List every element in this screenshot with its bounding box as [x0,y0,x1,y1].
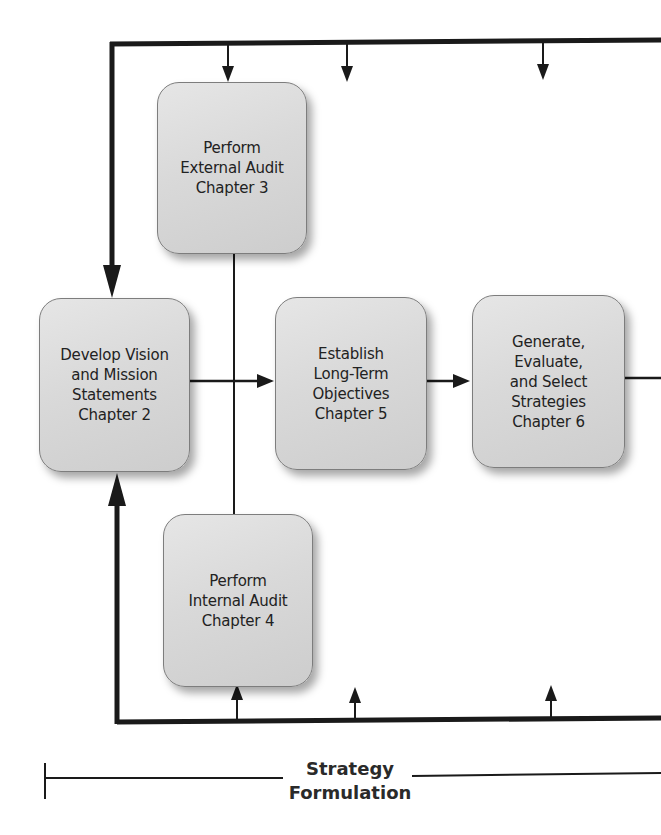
internal-audit-label: Perform Internal Audit Chapter 4 [188,571,287,631]
up-arrow-icon [349,687,361,703]
internal-audit-box: Perform Internal Audit Chapter 4 [163,514,313,687]
up-arrow-icon [545,685,557,701]
right-arrow-icon [453,374,470,388]
down-arrow-icon [341,66,353,82]
long-term-objectives-label: Establish Long-Term Objectives Chapter 5 [313,344,390,424]
strategies-label: Generate, Evaluate, and Select Strategie… [510,332,587,432]
long-term-objectives-box: Establish Long-Term Objectives Chapter 5 [275,297,427,470]
footer-right-line [412,773,661,776]
down-arrow-icon [537,64,549,80]
strategy-formulation-diagram: Perform External Audit Chapter 3 Develop… [0,0,661,835]
vision-mission-label: Develop Vision and Mission Statements Ch… [60,345,168,425]
big-up-arrow-icon [108,473,126,506]
big-down-arrow-icon [103,265,121,298]
vision-mission-box: Develop Vision and Mission Statements Ch… [39,298,190,472]
right-arrow-icon [257,374,274,388]
strategy-formulation-label: Strategy Formulation [280,757,420,805]
external-audit-box: Perform External Audit Chapter 3 [157,82,307,254]
down-arrow-icon [222,66,234,82]
top-feedback-line [110,40,661,44]
strategies-box: Generate, Evaluate, and Select Strategie… [472,295,625,468]
bottom-feedback-line [117,718,661,722]
external-audit-label: Perform External Audit Chapter 3 [180,138,284,198]
